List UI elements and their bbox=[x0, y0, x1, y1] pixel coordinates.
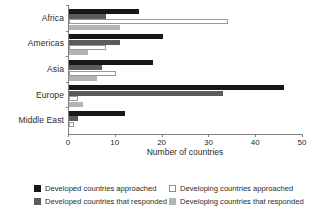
bar bbox=[69, 85, 284, 90]
legend-swatch-icon bbox=[169, 198, 176, 205]
category-tick bbox=[66, 107, 69, 108]
bar-row bbox=[69, 40, 303, 45]
x-tick-label: 30 bbox=[204, 138, 213, 147]
x-tick bbox=[208, 134, 209, 137]
legend-item[interactable]: Developing countries that responded bbox=[169, 197, 304, 206]
bar-row bbox=[69, 50, 303, 55]
legend-label: Developed countries approached bbox=[45, 184, 156, 193]
bar bbox=[69, 65, 102, 70]
category-label-middle-east: Middle East bbox=[0, 115, 64, 125]
category-tick bbox=[66, 31, 69, 32]
bar bbox=[69, 25, 120, 30]
x-tick-label: 20 bbox=[157, 138, 166, 147]
bar-group bbox=[69, 83, 303, 109]
bar bbox=[69, 96, 78, 101]
x-tick bbox=[162, 134, 163, 137]
bar-row bbox=[69, 127, 303, 132]
bar-group bbox=[69, 57, 303, 83]
legend-item[interactable]: Developed countries that responded bbox=[34, 197, 169, 206]
chart-legend: Developed countries approachedDeveloping… bbox=[34, 182, 304, 208]
bar bbox=[69, 14, 106, 19]
x-tick bbox=[255, 134, 256, 137]
bar-row bbox=[69, 9, 303, 14]
bar-row bbox=[69, 96, 303, 101]
bar bbox=[69, 60, 153, 65]
bar-row bbox=[69, 85, 303, 90]
x-tick-label: 10 bbox=[110, 138, 119, 147]
plot-area bbox=[68, 6, 303, 134]
bar bbox=[69, 34, 163, 39]
bar-row bbox=[69, 25, 303, 30]
bar bbox=[69, 116, 78, 121]
bar bbox=[69, 111, 125, 116]
bar-row bbox=[69, 71, 303, 76]
bar bbox=[69, 50, 88, 55]
bar bbox=[69, 76, 97, 81]
x-tick bbox=[115, 134, 116, 137]
bar-row bbox=[69, 60, 303, 65]
bar bbox=[69, 91, 223, 96]
bar-row bbox=[69, 122, 303, 127]
legend-swatch-icon bbox=[169, 185, 176, 192]
bar bbox=[69, 9, 139, 14]
x-tick bbox=[302, 134, 303, 137]
x-tick-label: 50 bbox=[298, 138, 307, 147]
bar bbox=[69, 122, 74, 127]
bar-row bbox=[69, 14, 303, 19]
bar-row bbox=[69, 91, 303, 96]
category-axis: AfricaAmericasAsiaEuropeMiddle East bbox=[0, 6, 64, 134]
bar-group bbox=[69, 108, 303, 134]
legend-item[interactable]: Developed countries approached bbox=[34, 184, 169, 193]
category-tick bbox=[66, 5, 69, 6]
x-tick-label: 0 bbox=[66, 138, 70, 147]
bar-row bbox=[69, 34, 303, 39]
bar-row bbox=[69, 65, 303, 70]
legend-label: Developing countries that responded bbox=[180, 197, 304, 206]
x-axis: 01020304050 bbox=[68, 134, 302, 135]
bar bbox=[69, 45, 106, 50]
bar-row bbox=[69, 45, 303, 50]
legend-label: Developed countries that responded bbox=[45, 197, 167, 206]
bar-chart: AfricaAmericasAsiaEuropeMiddle East 0102… bbox=[0, 0, 322, 216]
bar bbox=[69, 19, 228, 24]
legend-swatch-icon bbox=[34, 198, 41, 205]
category-label-americas: Americas bbox=[0, 38, 64, 48]
category-label-europe: Europe bbox=[0, 90, 64, 100]
legend-item[interactable]: Developing countries approached bbox=[169, 184, 304, 193]
category-tick bbox=[66, 82, 69, 83]
category-label-asia: Asia bbox=[0, 64, 64, 74]
category-label-africa: Africa bbox=[0, 13, 64, 23]
x-axis-title: Number of countries bbox=[68, 147, 302, 157]
bar-group bbox=[69, 32, 303, 58]
bar-row bbox=[69, 116, 303, 121]
bar-row bbox=[69, 111, 303, 116]
x-tick bbox=[68, 134, 69, 137]
bar bbox=[69, 102, 83, 107]
bar-group bbox=[69, 6, 303, 32]
bar-row bbox=[69, 76, 303, 81]
category-tick bbox=[66, 56, 69, 57]
legend-label: Developing countries approached bbox=[180, 184, 293, 193]
legend-swatch-icon bbox=[34, 185, 41, 192]
bar-row bbox=[69, 19, 303, 24]
bar bbox=[69, 40, 120, 45]
bar-row bbox=[69, 102, 303, 107]
bar bbox=[69, 71, 116, 76]
x-tick-label: 40 bbox=[251, 138, 260, 147]
